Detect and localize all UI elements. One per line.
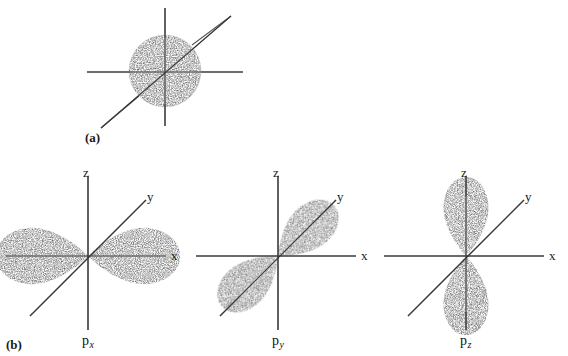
py-orbital-label: py [272,334,284,350]
pz-orbital-label: pz [460,334,471,350]
px-x-axis-label: x [171,249,178,262]
panel-b-caption: (b) [6,338,22,351]
py-z-axis-label: z [273,166,279,179]
pz-x-axis-label: x [549,249,556,262]
panel-b-pz-diagram [384,176,544,335]
py-axes [196,176,356,330]
px-orbital-label-main: p [82,333,89,348]
py-orbital-label-sub: y [279,339,284,350]
panel-a-s-orbital [87,8,243,128]
px-y-axis-label: y [147,190,154,203]
pz-orbital-label-sub: z [467,339,471,350]
pz-y-axis-label: y [525,190,532,203]
px-orbital-label: px [82,334,94,350]
pz-orbital-label-main: p [460,333,467,348]
px-orbital-label-sub: x [89,339,94,350]
panel-b-py-diagram [196,176,356,330]
pz-z-axis-label: z [461,166,467,179]
px-z-axis-label: z [83,166,89,179]
py-y-axis-label: y [337,190,344,203]
panel-a-caption: (a) [85,131,100,144]
py-axes-overlay [196,176,356,330]
py-orbital-label-main: p [272,333,279,348]
py-x-axis-label: x [361,249,368,262]
orbital-figure: (a) (b) z y x z y x z y x px py pz [0,0,568,356]
s-orbital-sphere [129,35,201,107]
